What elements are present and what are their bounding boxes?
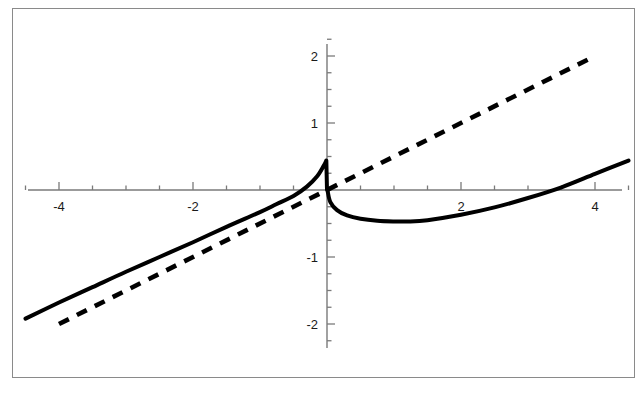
- y-tick-label: 2: [311, 50, 318, 63]
- y-tick-label: 1: [311, 117, 318, 130]
- x-tick-label: 2: [457, 200, 464, 213]
- screenshot-root: -4-22421-1-2: [0, 0, 644, 394]
- y-tick-label: -2: [306, 318, 318, 331]
- y-tick-label: -1: [306, 251, 318, 264]
- x-tick-label: -2: [187, 200, 199, 213]
- chart-canvas: [0, 0, 644, 394]
- x-tick-label: -4: [53, 200, 65, 213]
- x-tick-label: 4: [591, 200, 598, 213]
